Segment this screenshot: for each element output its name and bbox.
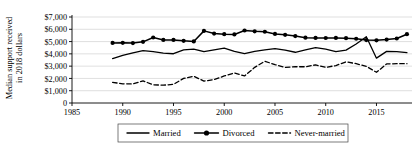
data-point-marker [253, 29, 257, 33]
data-point-marker [283, 33, 287, 37]
data-point-marker [182, 39, 186, 43]
data-point-marker [202, 29, 206, 33]
x-axis-tick-label: 1990 [115, 108, 131, 117]
data-point-marker [263, 30, 267, 34]
y-axis-tick-label: $1,000 [44, 87, 67, 96]
data-point-marker [232, 32, 236, 36]
x-axis-tick-label: 2015 [368, 108, 384, 117]
x-axis-tick-label: 2005 [267, 108, 283, 117]
x-axis-tick-label: 2010 [318, 108, 334, 117]
data-point-marker [273, 32, 277, 36]
data-point-marker [405, 32, 409, 36]
data-point-marker [192, 39, 196, 43]
data-point-marker [395, 36, 399, 40]
data-point-marker [303, 36, 307, 40]
data-point-marker [344, 36, 348, 40]
y-axis-tick-label: $5,000 [44, 38, 67, 47]
data-point-marker [354, 37, 358, 41]
series-line-never-married [113, 61, 407, 85]
legend-marker [204, 130, 209, 135]
data-point-marker [171, 38, 175, 42]
y-axis-tick-label: $2,000 [44, 75, 67, 84]
data-point-marker [313, 36, 317, 40]
data-point-marker [141, 40, 145, 44]
x-axis-tick-label: 2000 [216, 108, 232, 117]
data-point-marker [110, 41, 114, 45]
data-point-marker [364, 38, 368, 42]
data-point-marker [222, 32, 226, 36]
y-axis-tick-label: $7,000 [44, 13, 67, 22]
x-axis-tick-label: 1995 [165, 108, 181, 117]
data-point-marker [212, 31, 216, 35]
data-point-marker [293, 34, 297, 38]
data-point-marker [385, 38, 389, 42]
chart-plot: 0$1,000$2,000$3,000$4,000$5,000$6,000$7,… [0, 0, 420, 147]
legend-label: Divorced [223, 128, 256, 138]
data-point-marker [242, 28, 246, 32]
data-point-marker [151, 35, 155, 39]
data-point-marker [131, 41, 135, 45]
y-axis-tick-label: $6,000 [44, 25, 67, 34]
data-point-marker [324, 36, 328, 40]
legend-label: Married [153, 128, 181, 138]
y-axis-tick-label: $3,000 [44, 62, 67, 71]
y-axis-tick-label: $4,000 [44, 50, 67, 59]
x-axis-tick-label: 1985 [64, 108, 80, 117]
legend-label: Never-married [295, 128, 346, 138]
series-line-divorced [113, 31, 407, 44]
data-point-marker [121, 41, 125, 45]
data-point-marker [161, 38, 165, 42]
data-point-marker [374, 38, 378, 42]
data-point-marker [334, 36, 338, 40]
chart-container: Median support received in 2018 dollars … [0, 0, 420, 147]
